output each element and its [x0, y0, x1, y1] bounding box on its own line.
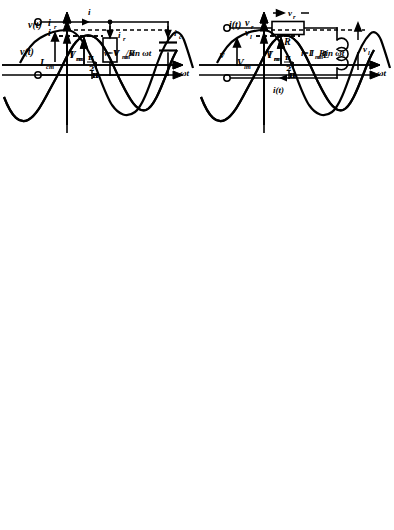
inductor-voltage-waveform: v l V lm π 2 [197, 0, 394, 138]
pi-over-2-denominator: 2 [286, 63, 292, 73]
pi-over-2-numerator: π [88, 52, 94, 62]
amplitude-arrow [64, 33, 70, 72]
amplitude-arrow [261, 33, 267, 72]
cosine-curve [217, 30, 390, 115]
y-axis-label-sub: c [53, 33, 56, 40]
pi-over-2-denominator: 2 [89, 63, 95, 73]
amplitude-label-sub: lm [244, 63, 251, 70]
cosine-curve [20, 30, 193, 115]
y-axis-label: i [48, 27, 51, 38]
capacitor-current-waveform: i c I cm π 2 [0, 0, 197, 138]
pi-over-2-numerator: π [285, 52, 291, 62]
y-axis-label-sub: l [250, 33, 252, 40]
amplitude-label: I [39, 57, 45, 68]
amplitude-label-sub: cm [46, 63, 54, 70]
